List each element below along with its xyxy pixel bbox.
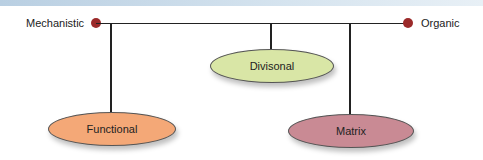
node-matrix: Matrix xyxy=(288,114,414,148)
connector-divisonal xyxy=(270,23,272,50)
connector-functional xyxy=(110,23,112,112)
organic-label: Organic xyxy=(421,17,460,29)
header-band xyxy=(0,0,483,6)
connector-matrix xyxy=(349,23,351,115)
mechanistic-label: Mechanistic xyxy=(26,17,84,29)
organic-dot-icon xyxy=(403,18,413,28)
node-functional: Functional xyxy=(48,112,176,146)
continuum-line xyxy=(96,23,408,25)
node-divisonal: Divisonal xyxy=(210,49,334,83)
